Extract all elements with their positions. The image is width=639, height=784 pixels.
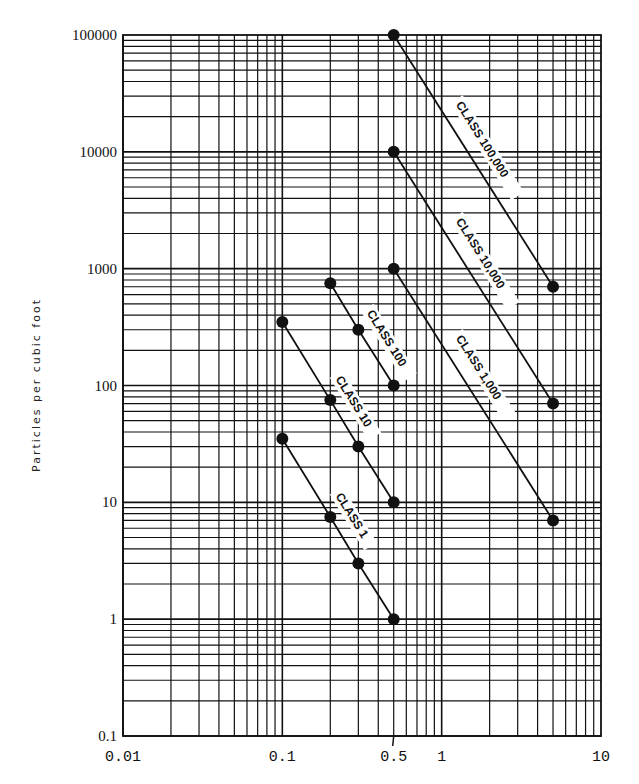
class-label-text: CLASS 100 bbox=[364, 307, 410, 369]
y-tick-label: 100000 bbox=[72, 27, 117, 43]
class-label-text: CLASS 100,000 bbox=[453, 99, 512, 181]
data-point bbox=[324, 394, 336, 406]
data-point bbox=[276, 433, 288, 445]
class-lines bbox=[276, 29, 559, 625]
data-point bbox=[547, 398, 559, 410]
data-point bbox=[388, 263, 400, 275]
data-point bbox=[352, 557, 364, 569]
x-tick-label: 10 bbox=[592, 749, 610, 766]
y-axis-tick-labels: 1000001000010001001010.1 bbox=[72, 27, 117, 744]
y-tick-label: 1 bbox=[110, 611, 118, 627]
data-point bbox=[324, 277, 336, 289]
class-label-text: CLASS 1,000 bbox=[453, 332, 505, 402]
x-tick-label: 0.5 bbox=[380, 749, 407, 766]
data-point bbox=[547, 281, 559, 293]
data-point bbox=[352, 441, 364, 453]
y-tick-label: 1000 bbox=[87, 261, 117, 277]
class-label: CLASS 1 bbox=[330, 487, 377, 551]
y-tick-label: 10 bbox=[102, 494, 117, 510]
x-axis-tick-labels: 0.010.10.5110 bbox=[105, 736, 610, 766]
class-label: CLASS 10 bbox=[330, 370, 381, 441]
y-axis-title: Particles per cubic foot bbox=[30, 298, 43, 472]
data-point bbox=[324, 511, 336, 523]
class-line bbox=[394, 269, 553, 521]
data-point bbox=[547, 514, 559, 526]
x-tick-label: 1 bbox=[437, 749, 446, 766]
y-tick-label: 100 bbox=[95, 378, 118, 394]
class-line bbox=[282, 322, 393, 502]
data-point bbox=[388, 496, 400, 508]
log-log-chart: 1000001000010001001010.1 0.010.10.5110 C… bbox=[0, 0, 639, 784]
class-label: CLASS 100,000 bbox=[450, 95, 524, 200]
data-point bbox=[388, 146, 400, 158]
grid-lines bbox=[123, 35, 601, 736]
class-label-text: CLASS 1 bbox=[333, 490, 372, 541]
data-point bbox=[388, 380, 400, 392]
y-tick-label: 0.1 bbox=[98, 728, 117, 744]
class-line bbox=[282, 439, 393, 619]
y-tick-label: 10000 bbox=[80, 144, 118, 160]
x-tick-label: 0.01 bbox=[105, 749, 141, 766]
data-point bbox=[388, 613, 400, 625]
data-point bbox=[276, 316, 288, 328]
data-point bbox=[388, 29, 400, 41]
data-point bbox=[352, 324, 364, 336]
x-tick-label: 0.1 bbox=[269, 749, 296, 766]
x-tick-mark-0.5 bbox=[393, 736, 394, 746]
